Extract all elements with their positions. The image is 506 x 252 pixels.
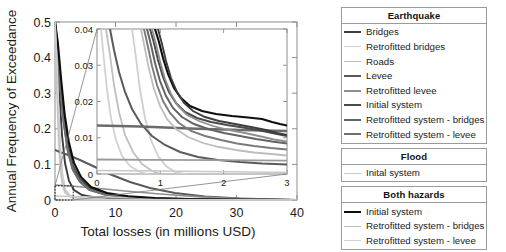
legend-item-label: Retrofitted bridges xyxy=(366,42,445,52)
legend-line-swatch xyxy=(344,240,361,241)
y-tick-label: 0.1 xyxy=(34,158,51,172)
x-tick-label: 0 xyxy=(52,206,59,220)
legend-item[interactable]: Roads xyxy=(342,54,486,69)
legend-line-swatch xyxy=(344,61,361,62)
x-tick-label: 20 xyxy=(169,206,183,220)
legend-line-swatch xyxy=(344,31,361,33)
legend-item[interactable]: Initial system xyxy=(342,98,486,113)
x-tick-label: 40 xyxy=(290,206,304,220)
inset-y-tick-label: 0.02 xyxy=(75,96,94,107)
legend-item[interactable]: Levee xyxy=(342,69,486,84)
legend-item-label: Levee xyxy=(366,71,392,81)
x-tick-label: 30 xyxy=(230,206,244,220)
y-tick-label: 0.2 xyxy=(34,122,51,136)
main-y-tick-labels: 0 0.1 0.2 0.3 0.4 0.5 xyxy=(34,16,51,208)
legend-line-swatch xyxy=(344,75,361,77)
legend-item-label: Retrofitted levee xyxy=(366,86,437,96)
legend-item[interactable]: Retrofitted system - levee xyxy=(342,127,486,142)
inset-x-tick-label: 1 xyxy=(158,177,163,188)
inset-y-tick-label: 0.03 xyxy=(75,60,94,71)
y-tick-label: 0 xyxy=(44,194,51,208)
main-x-tick-labels: 0 10 20 30 40 xyxy=(52,206,304,220)
inset-y-tick-labels: 0 0.01 0.02 0.03 0.04 xyxy=(75,24,94,180)
legend-line-swatch xyxy=(344,46,361,47)
legend-line-swatch xyxy=(344,226,361,227)
legend-item[interactable]: Initial system xyxy=(342,204,486,219)
inset-x-tick-label: 0 xyxy=(94,177,99,188)
legend-line-swatch xyxy=(344,211,361,213)
x-axis-title: Total losses (in millions USD) xyxy=(81,224,256,239)
legend-item-label: Retrofitted system - levee xyxy=(366,130,476,140)
chart-screenshot: 0 10 20 30 40 0 0.1 0.2 0.3 0.4 0.5 Tota… xyxy=(0,0,506,252)
legend-line-swatch xyxy=(344,173,361,174)
legend-item[interactable]: Inital system xyxy=(342,166,486,181)
legend-line-swatch xyxy=(344,119,361,121)
legend-item[interactable]: Retrofitted levee xyxy=(342,83,486,98)
y-tick-label: 0.3 xyxy=(34,87,51,101)
legend-item-label: Inital system xyxy=(366,168,420,178)
legend-block-earthquake: Earthquake Bridges Retrofitted bridges R… xyxy=(341,7,487,144)
legend-block-both-hazards: Both hazards Initial system Retrofitted … xyxy=(341,186,487,250)
legend-header-both-hazards: Both hazards xyxy=(342,187,486,203)
inset-x-tick-label: 3 xyxy=(284,177,289,188)
legend-item[interactable]: Retrofitted system - bridges xyxy=(342,113,486,128)
inset-eq-retrofitted-levee xyxy=(97,160,287,161)
legend-line-swatch xyxy=(344,104,361,106)
legend-block-flood: Flood Inital system xyxy=(341,148,487,183)
y-tick-label: 0.4 xyxy=(34,51,51,65)
exceedance-curve-figure: 0 10 20 30 40 0 0.1 0.2 0.3 0.4 0.5 Tota… xyxy=(0,0,336,252)
inset-axes: 0 1 2 3 0 0.01 0.02 0.03 0.04 xyxy=(75,24,290,189)
main-plot-svg: 0 10 20 30 40 0 0.1 0.2 0.3 0.4 0.5 Tota… xyxy=(0,0,336,252)
legend-item-label: Retrofitted system - levee xyxy=(366,236,476,246)
x-tick-label: 10 xyxy=(109,206,123,220)
legend-line-swatch xyxy=(344,133,361,135)
inset-y-tick-label: 0.04 xyxy=(75,24,94,35)
legend-item-label: Retrofitted system - bridges xyxy=(366,115,484,125)
legend-items-both-hazards: Initial system Retrofitted system - brid… xyxy=(342,203,486,249)
legend-header-earthquake: Earthquake xyxy=(342,8,486,24)
inset-x-tick-label: 2 xyxy=(221,177,226,188)
legend-item[interactable]: Retrofitted bridges xyxy=(342,40,486,55)
inset-y-tick-label: 0.01 xyxy=(75,132,94,143)
legend-line-swatch xyxy=(344,90,361,92)
legend: Earthquake Bridges Retrofitted bridges R… xyxy=(341,7,487,252)
legend-item[interactable]: Retrofitted system - bridges xyxy=(342,219,486,234)
legend-item-label: Initial system xyxy=(366,100,422,110)
legend-items-flood: Inital system xyxy=(342,165,486,182)
legend-item-label: Roads xyxy=(366,57,394,67)
y-axis-title: Annual Frequency of Exceedance xyxy=(4,10,19,213)
legend-item-label: Retrofitted system - bridges xyxy=(366,221,484,231)
legend-item-label: Bridges xyxy=(366,27,399,37)
legend-item[interactable]: Bridges xyxy=(342,25,486,40)
legend-items-earthquake: Bridges Retrofitted bridges Roads Levee … xyxy=(342,24,486,143)
inset-y-tick-label: 0 xyxy=(88,169,93,180)
y-tick-label: 0.5 xyxy=(34,16,51,30)
legend-header-flood: Flood xyxy=(342,149,486,165)
legend-item[interactable]: Retrofitted system - levee xyxy=(342,234,486,249)
legend-item-label: Initial system xyxy=(366,207,422,217)
